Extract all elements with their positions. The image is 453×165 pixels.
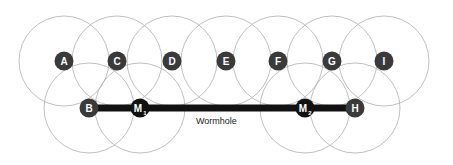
node-d: D (163, 52, 182, 71)
wormhole-label: Wormhole (196, 116, 237, 126)
node-label: B (85, 103, 92, 114)
node-label: A (60, 56, 67, 67)
node-label: F (275, 56, 281, 67)
node-m2: M2 (296, 99, 315, 118)
node-e: E (217, 52, 236, 71)
radio-range-circles (19, 16, 429, 153)
node-h: H (346, 99, 365, 118)
node-label: M (134, 103, 142, 114)
node-label: H (351, 103, 358, 114)
node-m1: M1 (131, 99, 150, 118)
diagram-canvas: Wormhole ACDEFGIBM1M2H (0, 0, 453, 165)
node-label: C (113, 56, 120, 67)
node-label: G (328, 56, 336, 67)
node-a: A (55, 52, 74, 71)
wormhole-tunnel: Wormhole (89, 108, 355, 126)
node-b: B (80, 99, 99, 118)
node-label: E (223, 56, 230, 67)
wormhole-diagram: Wormhole ACDEFGIBM1M2H (0, 0, 453, 165)
node-i: I (375, 52, 394, 71)
node-c: C (108, 52, 127, 71)
node-f: F (269, 52, 288, 71)
node-label: M (299, 103, 307, 114)
node-g: G (323, 52, 342, 71)
node-label: I (383, 56, 386, 67)
node-label: D (168, 56, 175, 67)
